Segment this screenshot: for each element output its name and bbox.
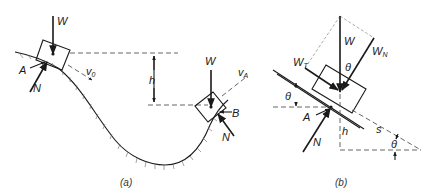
- label-distance: s: [376, 123, 382, 135]
- label-weight-a: W: [57, 15, 69, 27]
- caption-b: (b): [335, 177, 347, 188]
- label-height-a: h: [149, 74, 155, 86]
- svg-text:WT: WT: [293, 56, 308, 69]
- label-height-b: h: [342, 125, 348, 137]
- label-weight-tangent-sub: T: [303, 62, 308, 69]
- label-theta-left: θ: [285, 90, 291, 102]
- velocity-a-line: [222, 78, 245, 96]
- label-point-a-b: A: [302, 111, 310, 123]
- label-normal-a: N: [33, 82, 41, 94]
- label-point-b: B: [232, 107, 239, 119]
- figure-a: W A N v0 h W vA B N (a: [15, 15, 249, 188]
- svg-text:vA: vA: [238, 66, 249, 79]
- svg-text:WN: WN: [372, 45, 388, 58]
- svg-text:v0: v0: [86, 65, 96, 78]
- label-weight-b: W: [205, 55, 217, 67]
- label-velocity-a-sub: A: [243, 72, 249, 79]
- figure-b: W WN WT θ s h θ θ A N (b): [273, 16, 421, 188]
- label-normal: N: [313, 136, 321, 148]
- label-weight-normal-sub: N: [382, 51, 388, 58]
- surface-hatching: [20, 54, 222, 170]
- label-weight: W: [344, 35, 356, 47]
- block-incline: [312, 65, 366, 113]
- label-theta-bottom: θ: [391, 138, 397, 150]
- curved-surface: [15, 52, 228, 165]
- label-point-a: A: [18, 64, 26, 76]
- label-velocity-0-sub: 0: [92, 71, 96, 78]
- caption-a: (a): [120, 177, 132, 188]
- weight-tangent-arrow: [305, 68, 338, 90]
- label-normal-b: N: [222, 131, 230, 143]
- label-theta-force: θ: [345, 61, 351, 73]
